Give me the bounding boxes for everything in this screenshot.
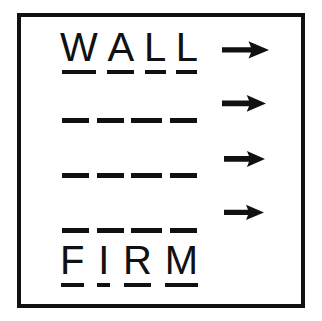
letter-glyph: L [144, 27, 166, 67]
arrow-right-icon [224, 203, 265, 222]
letter-glyph: A [108, 27, 135, 67]
bottom-word-letter-4: M [165, 240, 198, 287]
letter-underline [124, 283, 151, 287]
blank-dash [131, 118, 162, 123]
bottom-word-letter-3: R [123, 240, 152, 287]
bottom-word-row: F I R M [60, 240, 198, 287]
letter-underline [107, 70, 134, 74]
letter-underline [62, 70, 96, 74]
blank-dash [62, 173, 89, 178]
letter-glyph: L [176, 27, 198, 67]
blank-dash [170, 228, 197, 233]
letter-underline [176, 70, 197, 74]
letter-underline [97, 283, 110, 287]
blank-dash [97, 118, 124, 123]
word-ladder-puzzle-card: W A L L [0, 0, 322, 321]
blank-dash [97, 173, 124, 178]
blank-dash [170, 118, 197, 123]
letter-glyph: F [60, 240, 84, 280]
bottom-word-letter-2: I [97, 240, 110, 287]
letter-glyph: I [98, 240, 109, 280]
arrow-right-icon [224, 149, 266, 169]
top-word-letter-2: A [107, 27, 134, 74]
letter-glyph: M [165, 240, 198, 280]
blank-word-row-3 [62, 228, 197, 233]
letter-underline [145, 70, 166, 74]
blank-dash [97, 228, 124, 233]
puzzle-stage: W A L L [0, 0, 322, 321]
bottom-word-letter-1: F [60, 240, 84, 287]
letter-glyph: R [123, 240, 152, 280]
blank-dash [131, 173, 162, 178]
blank-dash [131, 228, 162, 233]
blank-word-row-2 [62, 173, 197, 178]
blank-dash [170, 173, 197, 178]
blank-word-row-1 [62, 118, 197, 123]
arrow-right-icon [222, 39, 270, 61]
top-word-row: W A L L [60, 27, 198, 74]
letter-underline [165, 283, 198, 287]
arrow-right-icon [222, 93, 267, 114]
blank-dash [62, 228, 89, 233]
letter-glyph: W [60, 27, 98, 67]
top-word-letter-4: L [176, 27, 198, 74]
blank-dash [62, 118, 89, 123]
letter-underline [61, 283, 84, 287]
top-word-letter-1: W [60, 27, 98, 74]
top-word-letter-3: L [144, 27, 166, 74]
